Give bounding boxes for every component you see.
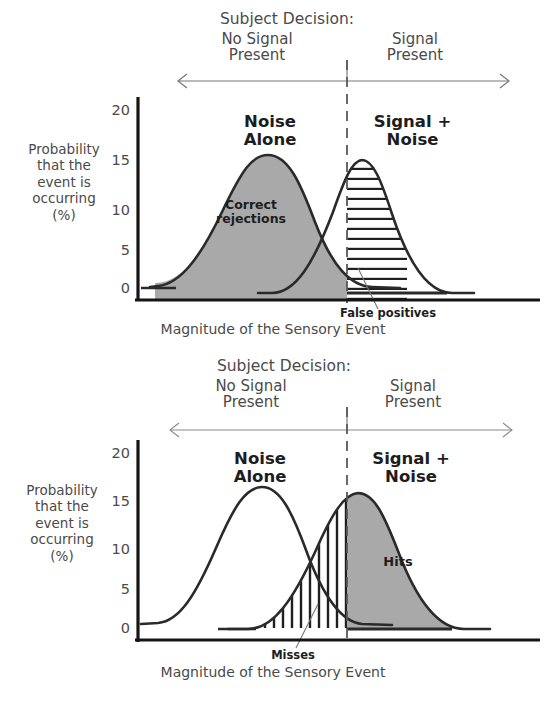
y-tick-5-top: 5 (100, 243, 130, 258)
decision-title-top: Subject Decision: (107, 11, 467, 27)
hits-label: Hits (368, 555, 428, 570)
y-tick-5-bottom: 5 (100, 582, 130, 597)
decision-arrow-bottom (170, 423, 512, 437)
y-tick-0-bottom: 0 (100, 621, 130, 636)
decision-right-label-top: Signal Present (360, 32, 470, 64)
signal-noise-label-bottom: Signal + Noise (352, 450, 470, 486)
signal-noise-label-top: Signal + Noise (355, 113, 470, 149)
panel-top: Subject Decision: No Signal Present Sign… (0, 0, 547, 355)
correct-rejections-label: Correct rejections (196, 198, 306, 226)
decision-arrow-top (178, 74, 509, 88)
panel-bottom: Subject Decision: No Signal Present Sign… (0, 352, 547, 707)
y-tick-10-bottom: 10 (100, 542, 130, 557)
decision-left-label-bottom: No Signal Present (186, 379, 316, 411)
y-tick-0-top: 0 (100, 281, 130, 296)
x-axis-title-bottom: Magnitude of the Sensory Event (73, 665, 473, 680)
decision-left-label-top: No Signal Present (192, 32, 322, 64)
y-tick-15-top: 15 (100, 153, 130, 168)
noise-alone-label-bottom: Noise Alone (205, 450, 315, 486)
x-axis-title-top: Magnitude of the Sensory Event (73, 322, 473, 337)
decision-right-label-bottom: Signal Present (358, 379, 468, 411)
y-tick-10-top: 10 (100, 203, 130, 218)
decision-title-bottom: Subject Decision: (104, 358, 464, 374)
y-tick-20-bottom: 20 (100, 446, 130, 461)
false-positives-label: False positives (338, 307, 438, 319)
y-tick-20-top: 20 (100, 103, 130, 118)
correct-rejections-shape (155, 155, 368, 300)
misses-label: Misses (248, 649, 338, 661)
y-tick-15-bottom: 15 (100, 494, 130, 509)
misses-shape (252, 482, 347, 632)
noise-alone-label-top: Noise Alone (215, 113, 325, 149)
